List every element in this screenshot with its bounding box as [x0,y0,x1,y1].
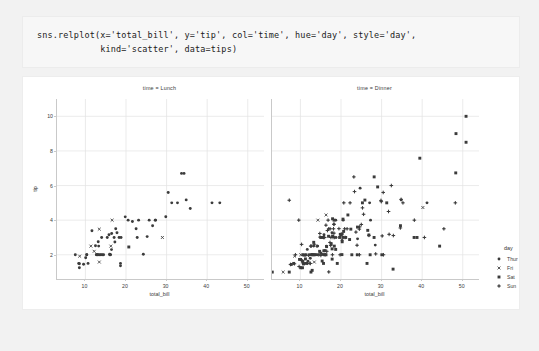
data-point [161,236,164,239]
data-point [97,245,100,248]
data-point [438,245,441,248]
data-point [146,235,149,238]
data-point [109,253,112,256]
data-point [137,219,140,222]
legend-label: Sun [507,283,516,289]
x-tick-mark [166,279,167,281]
data-point [113,236,116,239]
data-point [385,201,388,204]
data-point [98,228,101,231]
data-point [336,262,339,265]
data-point [78,255,81,258]
data-point [97,240,100,243]
data-point [400,198,403,201]
panel-title-lunch: time = Lunch [56,85,263,91]
data-point [332,223,336,227]
x-tick-label: 10 [82,283,88,289]
data-point [363,199,366,202]
data-point [189,207,192,210]
data-point [416,236,419,239]
data-point [399,224,402,227]
legend-item[interactable]: Sun [493,281,537,290]
data-point [465,115,468,118]
data-point [120,236,123,239]
data-point [124,215,127,218]
x-tick-label: 40 [203,283,209,289]
data-point [401,201,405,205]
data-point [374,244,377,247]
data-point [387,233,391,237]
data-point [345,227,349,231]
data-point [282,271,285,274]
data-point [180,172,183,175]
data-point [331,258,334,261]
scatter-canvas-dinner [272,99,479,279]
data-point [176,201,179,204]
data-point [348,201,352,205]
x-tick-mark [247,279,248,281]
legend-item[interactable]: Fri [493,263,537,272]
data-point [108,233,111,236]
x-tick-label: 30 [163,283,169,289]
data-point [110,232,113,235]
x-tick-label: 30 [378,283,384,289]
data-point [355,243,359,247]
data-point [148,219,151,222]
legend-entries: ThurFriSatSun [493,254,537,290]
data-point [311,269,314,272]
data-point [113,241,116,244]
legend-item[interactable]: Thur [493,254,537,263]
data-point [170,201,173,204]
code-cell[interactable]: sns.relplot(x='total_bill', y='tip', col… [22,16,520,68]
data-point [309,257,312,260]
x-axis-label-lunch: total_bill [56,291,263,297]
data-point [341,240,344,243]
data-point [344,236,347,239]
data-point [127,246,130,249]
data-point [392,234,396,238]
y-axis-label-lunch: tip [32,186,38,192]
legend-label: Sat [507,274,515,280]
data-point [106,236,109,239]
x-tick-mark [462,279,463,281]
data-point [301,266,304,269]
data-point [423,236,427,240]
x-marker [493,264,504,272]
data-point [392,268,395,271]
data-point [297,218,301,222]
data-point [167,191,170,194]
x-tick-mark [206,279,207,281]
y-tick-mark [54,186,56,187]
y-tick-mark [54,255,56,256]
x-tick-mark [84,279,85,281]
data-point [374,252,378,256]
data-point [85,253,88,256]
data-point [287,198,291,202]
data-point [356,237,359,240]
data-point [288,271,291,274]
legend-item[interactable]: Sat [493,272,537,281]
data-point [497,266,500,269]
y-tick-mark [54,220,56,221]
data-point [322,262,325,265]
data-point [332,227,336,231]
data-point [362,212,366,216]
data-point [354,230,358,234]
x-tick-mark [381,279,382,281]
data-point [418,157,421,160]
data-point [442,227,446,231]
x-tick-mark [340,279,341,281]
data-point [330,242,333,245]
data-point [151,224,154,227]
data-point [318,232,322,236]
code-line-2: kind='scatter', data=tips) [37,44,237,54]
data-point [114,227,117,230]
data-point [82,263,85,266]
data-point [90,229,93,232]
y-tick-mark [54,151,56,152]
square-marker [493,273,504,281]
legend-label: Fri [507,265,513,271]
data-point [342,219,345,222]
panel-title-dinner: time = Dinner [271,85,478,91]
data-point [348,238,351,241]
